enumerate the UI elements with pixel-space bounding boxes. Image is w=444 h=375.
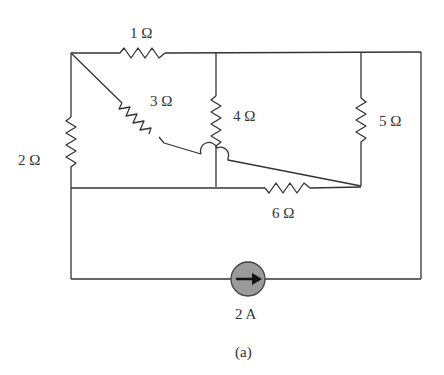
resistor-4-label: 4 Ω [233,108,255,124]
resistor-3-ohm: 3 Ω [71,53,201,154]
resistor-6-label: 6 Ω [272,205,294,221]
resistor-1-ohm: 1 Ω [120,25,165,58]
resistor-6-ohm: 6 Ω [71,183,361,221]
resistor-2-ohm: 2 Ω [18,53,76,279]
resistor-5-ohm: 5 Ω [356,52,401,186]
top-wire [71,52,421,53]
current-source-2a: 2 A [231,262,265,322]
resistor-3-label: 3 Ω [150,93,172,109]
resistor-2-label: 2 Ω [18,152,40,168]
circuit-diagram: 1 Ω 2 Ω 3 Ω 4 Ω 5 Ω 6 Ω [0,0,444,375]
resistor-4-ohm: 4 Ω [211,53,255,187]
wire-crossover-hop [200,142,361,186]
current-source-label: 2 A [235,306,256,322]
figure-caption: (a) [235,344,252,361]
resistor-5-label: 5 Ω [379,113,401,129]
resistor-1-label: 1 Ω [130,25,152,41]
